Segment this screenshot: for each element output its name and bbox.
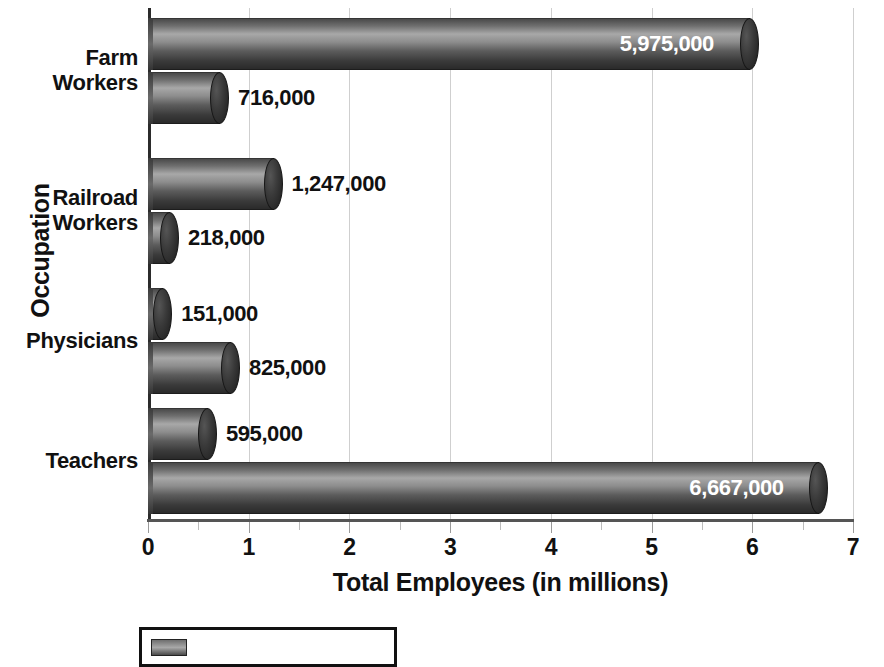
- gridline: [752, 8, 753, 519]
- bar-value-label: 5,975,000: [620, 31, 714, 57]
- x-tick-minor: [299, 522, 300, 530]
- category-label: Teachers: [0, 448, 138, 473]
- bar-end-cap: [264, 158, 283, 210]
- x-tick-label: 2: [329, 534, 369, 561]
- bar-end-cap: [210, 72, 229, 124]
- bar: [148, 408, 208, 460]
- x-tick-label: 4: [531, 534, 571, 561]
- category-label-line: Workers: [0, 210, 138, 235]
- legend-item: [151, 639, 197, 656]
- bar: [148, 288, 163, 340]
- y-axis-title: Occupation: [26, 151, 55, 351]
- bar-value-label: 825,000: [249, 355, 326, 381]
- category-label-line: Workers: [0, 70, 138, 95]
- bar: [148, 72, 220, 124]
- bar-end-cap: [221, 342, 240, 394]
- legend-swatch-icon: [151, 639, 187, 656]
- x-tick-label: 5: [632, 534, 672, 561]
- gridline: [349, 8, 350, 519]
- gridline: [853, 8, 854, 519]
- bar-base: [148, 158, 153, 210]
- category-label-line: Railroad: [0, 185, 138, 210]
- x-tick-major: [450, 522, 451, 533]
- bar-base: [148, 212, 153, 264]
- category-label: RailroadWorkers: [0, 185, 138, 235]
- bar: [148, 342, 231, 394]
- x-tick-major: [652, 522, 653, 533]
- gridline: [551, 8, 552, 519]
- x-tick-major: [551, 522, 552, 533]
- x-tick-major: [349, 522, 350, 533]
- bar-base: [148, 18, 153, 70]
- bar-base: [148, 462, 153, 514]
- x-tick-minor: [198, 522, 199, 530]
- x-tick-major: [148, 522, 149, 533]
- category-label-line: Physicians: [0, 328, 138, 353]
- bar-end-cap: [740, 18, 759, 70]
- x-tick-minor: [601, 522, 602, 530]
- x-tick-minor: [500, 522, 501, 530]
- bar-value-label: 151,000: [181, 301, 258, 327]
- x-tick-minor: [400, 522, 401, 530]
- x-tick-label: 3: [430, 534, 470, 561]
- bar-end-cap: [809, 462, 828, 514]
- category-label-line: Farm: [0, 45, 138, 70]
- bar: [148, 158, 274, 210]
- x-tick-minor: [702, 522, 703, 530]
- bar-end-cap: [153, 288, 172, 340]
- bar-value-label: 218,000: [188, 225, 265, 251]
- bar-end-cap: [160, 212, 179, 264]
- bar-end-cap: [198, 408, 217, 460]
- x-tick-label: 0: [128, 534, 168, 561]
- category-label-line: Teachers: [0, 448, 138, 473]
- x-tick-major: [853, 522, 854, 533]
- bar-base: [148, 408, 153, 460]
- bar-value-label: 595,000: [226, 421, 303, 447]
- x-tick-label: 7: [833, 534, 873, 561]
- bar-value-label: 1,247,000: [292, 171, 386, 197]
- category-label: FarmWorkers: [0, 45, 138, 95]
- bar-base: [148, 72, 153, 124]
- gridline: [450, 8, 451, 519]
- x-tick-label: 6: [732, 534, 772, 561]
- category-label: Physicians: [0, 328, 138, 353]
- bar: [148, 212, 170, 264]
- x-axis-title: Total Employees (in millions): [148, 568, 853, 597]
- x-tick-major: [249, 522, 250, 533]
- x-tick-minor: [803, 522, 804, 530]
- x-tick-label: 1: [229, 534, 269, 561]
- bar-value-label: 6,667,000: [689, 475, 783, 501]
- bar-base: [148, 342, 153, 394]
- legend: [139, 627, 397, 667]
- bar-value-label: 716,000: [238, 85, 315, 111]
- gridline: [652, 8, 653, 519]
- x-tick-major: [752, 522, 753, 533]
